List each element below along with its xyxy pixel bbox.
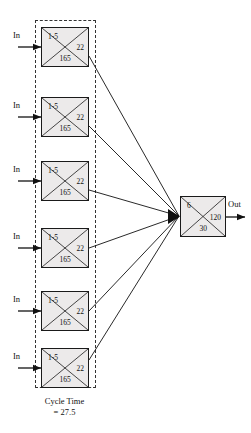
output-station-node[interactable]: 6 120 30 [180,196,226,237]
station-5-right-value: 22 [77,308,85,316]
station-6-right-value: 22 [77,365,85,373]
station-1-right-value: 22 [77,44,85,52]
station-3-node[interactable]: 1-5 22 165 [41,161,89,201]
station-4-right-value: 22 [77,245,85,253]
station-1-node[interactable]: 1-5 22 165 [41,27,89,67]
station-4-bottom-value: 165 [60,256,71,264]
station-2-bottom-value: 165 [60,125,71,133]
station-2-right-value: 22 [77,114,85,122]
station-2-node[interactable]: 1-5 22 165 [41,97,89,137]
output-station-right-value: 120 [210,213,221,221]
station-1-input-label: In [13,31,20,40]
station-2-top-value: 1-5 [48,103,58,111]
station-6-top-value: 1-5 [48,354,58,362]
station-5-node[interactable]: 1-5 22 165 [41,291,89,331]
station-4-node[interactable]: 1-5 22 165 [41,228,89,268]
station-6-node[interactable]: 1-5 22 165 [41,348,89,388]
station-5-bottom-value: 165 [60,319,71,327]
station-6-bottom-value: 165 [60,376,71,384]
station-1-bottom-value: 165 [60,55,71,63]
station-2-input-label: In [13,101,20,110]
output-station-top-value: 6 [187,202,191,210]
station-5-input-label: In [13,295,20,304]
station-5-top-value: 1-5 [48,297,58,305]
station-4-top-value: 1-5 [48,234,58,242]
station-3-top-value: 1-5 [48,167,58,175]
output-station-bottom-value: 30 [199,225,207,233]
convergence-edges [89,56,180,360]
cycle-time-caption: Cycle Time = 27.5 [0,396,251,419]
station-3-bottom-value: 165 [60,189,71,197]
station-4-input-label: In [13,232,20,241]
cycle-time-caption-line2: = 27.5 [0,407,190,418]
station-1-top-value: 1-5 [48,33,58,41]
process-flow-diagram: In 1-5 22 165 In 1-5 22 165 In 1-5 22 16… [0,0,251,433]
station-3-input-label: In [13,165,20,174]
cycle-time-caption-line1: Cycle Time [0,396,190,407]
output-station-output-label: Out [228,200,241,209]
station-6-input-label: In [13,352,20,361]
station-3-right-value: 22 [77,178,85,186]
input-arrows [18,47,41,368]
